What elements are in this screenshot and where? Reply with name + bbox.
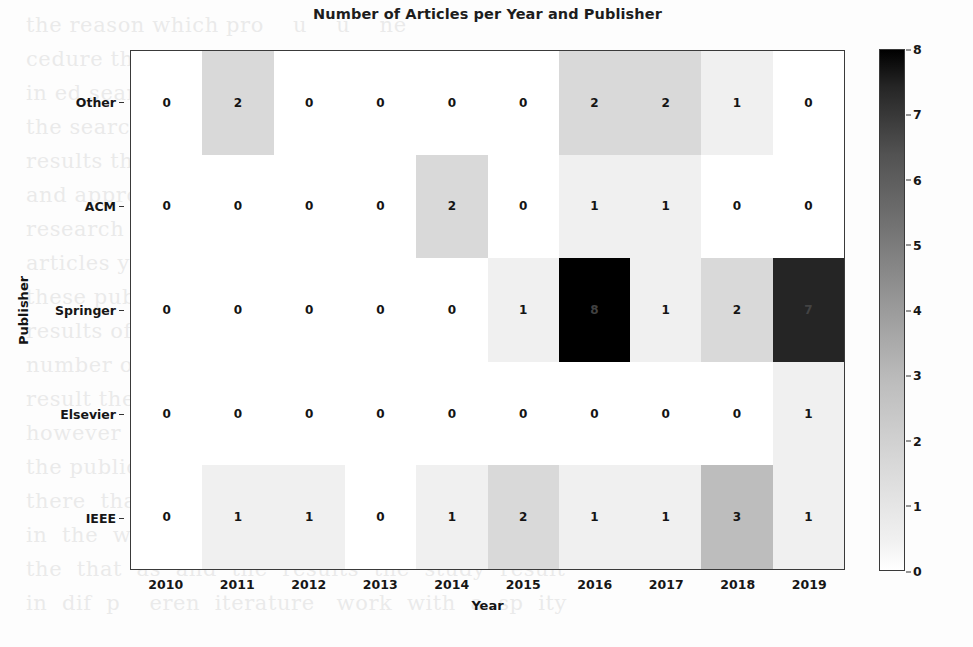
heatmap-cell: 1 — [701, 51, 772, 155]
heatmap-cell: 0 — [131, 258, 202, 362]
y-tick-other: Other — [0, 50, 124, 154]
heatmap-cell: 8 — [559, 258, 630, 362]
x-tick-2016: 2016 — [559, 572, 631, 598]
heatmap-plot-area: 0200002210000020110000000181270000000001… — [130, 50, 845, 570]
heatmap-cell: 0 — [274, 51, 345, 155]
heatmap-cell-value: 0 — [662, 407, 670, 421]
heatmap-cell: 0 — [274, 362, 345, 466]
heatmap-cell-value: 0 — [519, 407, 527, 421]
colorbar-tick-1: 1 — [906, 498, 922, 513]
heatmap-cell: 1 — [630, 155, 701, 259]
colorbar-tick-3: 3 — [906, 368, 922, 383]
heatmap-cell: 0 — [345, 362, 416, 466]
heatmap-cell-value: 1 — [662, 199, 670, 213]
heatmap-cell-value: 2 — [733, 303, 741, 317]
colorbar — [879, 49, 905, 571]
heatmap-cell-value: 0 — [804, 96, 812, 110]
x-tick-2011: 2011 — [202, 572, 274, 598]
heatmap-cell-grid: 0200002210000020110000000181270000000001… — [131, 51, 844, 569]
heatmap-cell-value: 0 — [376, 510, 384, 524]
colorbar-tick-5: 5 — [906, 237, 922, 252]
heatmap-cell: 0 — [345, 465, 416, 569]
heatmap-cell-value: 0 — [733, 199, 741, 213]
heatmap-cell: 1 — [559, 465, 630, 569]
heatmap-cell-value: 0 — [376, 407, 384, 421]
heatmap-cell-value: 0 — [519, 199, 527, 213]
heatmap-cell: 0 — [274, 258, 345, 362]
heatmap-cell: 0 — [345, 155, 416, 259]
heatmap-cell-value: 1 — [234, 510, 242, 524]
heatmap-cell: 1 — [630, 465, 701, 569]
heatmap-cell-value: 0 — [519, 96, 527, 110]
heatmap-cell-value: 1 — [733, 96, 741, 110]
colorbar-tick-2: 2 — [906, 433, 922, 448]
heatmap-cell: 1 — [488, 258, 559, 362]
x-axis-tick-labels: 2010 2011 2012 2013 2014 2015 2016 2017 … — [130, 572, 845, 598]
colorbar-gradient — [879, 49, 905, 571]
heatmap-cell: 1 — [773, 465, 844, 569]
heatmap-cell: 0 — [202, 362, 273, 466]
heatmap-cell: 0 — [773, 155, 844, 259]
heatmap-cell-value: 2 — [662, 96, 670, 110]
heatmap-cell: 0 — [701, 155, 772, 259]
heatmap-cell-value: 2 — [590, 96, 598, 110]
heatmap-cell: 0 — [488, 362, 559, 466]
heatmap-cell-value: 0 — [234, 199, 242, 213]
heatmap-cell: 0 — [488, 51, 559, 155]
heatmap-cell: 2 — [559, 51, 630, 155]
heatmap-cell: 0 — [345, 51, 416, 155]
y-axis-tick-labels: Other ACM Springer Elsevier IEEE — [0, 50, 124, 570]
heatmap-cell: 1 — [773, 362, 844, 466]
heatmap-cell-value: 0 — [162, 303, 170, 317]
colorbar-tick-8: 8 — [906, 42, 922, 57]
heatmap-cell-value: 0 — [448, 407, 456, 421]
heatmap-cell: 7 — [773, 258, 844, 362]
heatmap-cell-value: 1 — [590, 199, 598, 213]
heatmap-cell-value: 1 — [448, 510, 456, 524]
heatmap-cell-value: 0 — [305, 407, 313, 421]
heatmap-cell-value: 0 — [804, 199, 812, 213]
heatmap-cell-value: 0 — [448, 303, 456, 317]
heatmap-cell: 1 — [274, 465, 345, 569]
heatmap-cell-value: 1 — [590, 510, 598, 524]
x-tick-2019: 2019 — [774, 572, 846, 598]
colorbar-tick-labels: 012345678 — [906, 49, 946, 571]
heatmap-cell: 0 — [345, 258, 416, 362]
colorbar-tick-7: 7 — [906, 107, 922, 122]
x-axis-label: Year — [130, 598, 845, 613]
heatmap-cell: 1 — [559, 155, 630, 259]
heatmap-cell: 0 — [131, 465, 202, 569]
heatmap-cell: 3 — [701, 465, 772, 569]
colorbar-tick-0: 0 — [906, 564, 922, 579]
heatmap-cell: 2 — [701, 258, 772, 362]
heatmap-cell-value: 1 — [804, 510, 812, 524]
heatmap-cell-value: 0 — [162, 96, 170, 110]
heatmap-cell: 2 — [416, 155, 487, 259]
heatmap-cell-value: 1 — [662, 510, 670, 524]
y-tick-elsevier: Elsevier — [0, 362, 124, 466]
heatmap-cell: 0 — [416, 51, 487, 155]
x-tick-2018: 2018 — [702, 572, 774, 598]
heatmap-cell: 0 — [630, 362, 701, 466]
heatmap-cell: 0 — [202, 258, 273, 362]
heatmap-cell-value: 1 — [519, 303, 527, 317]
heatmap-cell: 0 — [701, 362, 772, 466]
y-tick-ieee: IEEE — [0, 466, 124, 570]
heatmap-cell: 1 — [202, 465, 273, 569]
heatmap-cell: 2 — [488, 465, 559, 569]
colorbar-tick-4: 4 — [906, 303, 922, 318]
page-title: Number of Articles per Year and Publishe… — [130, 6, 845, 22]
heatmap-cell: 2 — [630, 51, 701, 155]
heatmap-cell-value: 0 — [590, 407, 598, 421]
y-tick-springer: Springer — [0, 258, 124, 362]
heatmap-cell-value: 0 — [376, 199, 384, 213]
heatmap-cell: 0 — [488, 155, 559, 259]
colorbar-tick-6: 6 — [906, 172, 922, 187]
heatmap-cell-value: 2 — [234, 96, 242, 110]
heatmap-cell-value: 0 — [376, 96, 384, 110]
heatmap-cell-value: 0 — [305, 303, 313, 317]
heatmap-cell: 0 — [416, 362, 487, 466]
heatmap-cell-value: 0 — [162, 407, 170, 421]
x-tick-2017: 2017 — [631, 572, 703, 598]
heatmap-figure: Number of Articles per Year and Publishe… — [0, 0, 973, 647]
